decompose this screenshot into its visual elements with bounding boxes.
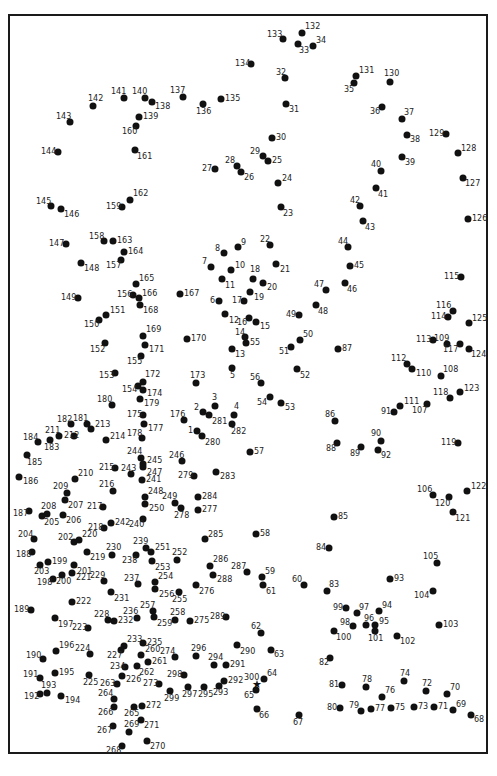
dot-number-label: 202 <box>58 534 73 542</box>
dot-number-label: 178 <box>127 430 142 438</box>
dot-number-label: 196 <box>59 642 74 650</box>
dot-point <box>337 705 344 712</box>
dot-number-label: 160 <box>122 128 137 136</box>
dot-number-label: 198 <box>37 579 52 587</box>
dot-point <box>88 426 95 433</box>
dot-number-label: 115 <box>444 273 459 281</box>
dot-number-label: 76 <box>385 687 395 695</box>
dot-point <box>231 412 238 419</box>
dot-number-label: 144 <box>41 148 56 156</box>
dot-number-label: 195 <box>59 669 74 677</box>
dot-point <box>401 678 408 685</box>
dot-point <box>212 166 219 173</box>
dot-point <box>119 673 126 680</box>
dot-number-label: 26 <box>244 174 254 182</box>
dot-number-label: 204 <box>18 531 33 539</box>
dot-number-label: 225 <box>83 679 98 687</box>
dot-number-label: 279 <box>178 472 193 480</box>
dot-number-label: 246 <box>169 452 184 460</box>
dot-number-label: 229 <box>90 572 105 580</box>
dot-number-label: 203 <box>34 568 49 576</box>
dot-point <box>430 588 437 595</box>
dot-point <box>148 549 155 556</box>
dot-number-label: 245 <box>147 457 162 465</box>
dot-number-label: 291 <box>230 661 245 669</box>
dot-number-label: 242 <box>115 519 130 527</box>
dot-number-label: 231 <box>114 595 129 603</box>
dot-number-label: 21 <box>280 266 290 274</box>
dot-number-label: 274 <box>160 648 175 656</box>
dot-point <box>436 622 443 629</box>
dot-number-label: 249 <box>162 493 177 501</box>
dot-point <box>142 342 149 349</box>
dot-number-label: 294 <box>208 654 223 662</box>
dot-number-label: 293 <box>213 689 228 697</box>
dot-number-label: 286 <box>213 556 228 564</box>
dot-number-label: 210 <box>78 470 93 478</box>
dot-number-label: 284 <box>202 493 217 501</box>
dot-number-label: 31 <box>289 106 299 114</box>
dot-number-label: 223 <box>72 624 87 632</box>
dot-number-label: 85 <box>338 513 348 521</box>
dot-number-label: 261 <box>152 658 167 666</box>
dot-number-label: 18 <box>250 266 260 274</box>
dot-number-label: 19 <box>254 294 264 302</box>
dot-number-label: 211 <box>45 427 60 435</box>
dot-number-label: 91 <box>381 408 391 416</box>
dot-number-label: 179 <box>144 400 159 408</box>
dot-number-label: 51 <box>279 348 289 356</box>
dot-number-label: 168 <box>143 307 158 315</box>
dot-number-label: 154 <box>122 386 137 394</box>
dot-number-label: 106 <box>417 486 432 494</box>
dot-number-label: 280 <box>205 439 220 447</box>
dot-number-label: 143 <box>56 113 71 121</box>
dot-point <box>213 469 220 476</box>
dot-point <box>44 690 51 697</box>
dot-point <box>221 250 228 257</box>
dot-number-label: 27 <box>202 165 212 173</box>
dot-point <box>142 501 149 508</box>
dot-number-label: 29 <box>250 148 260 156</box>
dot-number-label: 28 <box>225 157 235 165</box>
dot-number-label: 142 <box>88 95 103 103</box>
dot-number-label: 88 <box>326 445 336 453</box>
dot-point <box>278 400 285 407</box>
dot-number-label: 13 <box>235 351 245 359</box>
dot-number-label: 136 <box>196 108 211 116</box>
dot-number-label: 39 <box>405 159 415 167</box>
dot-number-label: 237 <box>124 575 139 583</box>
dot-number-label: 296 <box>191 645 206 653</box>
dot-point <box>216 298 223 305</box>
dot-point <box>140 379 147 386</box>
dot-point <box>211 662 218 669</box>
dot-number-label: 5 <box>230 372 235 380</box>
dot-number-label: 125 <box>472 315 487 323</box>
dot-number-label: 177 <box>148 425 163 433</box>
dot-point <box>269 135 276 142</box>
dot-number-label: 139 <box>143 113 158 121</box>
dot-number-label: 41 <box>378 191 388 199</box>
dot-point <box>223 662 230 669</box>
dot-number-label: 272 <box>146 702 161 710</box>
dot-point <box>267 394 274 401</box>
dot-number-label: 212 <box>64 432 79 440</box>
dot-number-label: 205 <box>44 519 59 527</box>
dot-number-label: 16 <box>237 319 247 327</box>
dot-number-label: 67 <box>293 719 303 727</box>
dot-number-label: 74 <box>400 670 410 678</box>
dot-number-label: 105 <box>423 553 438 561</box>
dot-number-label: 24 <box>282 175 292 183</box>
dot-number-label: 89 <box>350 450 360 458</box>
dot-point <box>138 652 145 659</box>
dot-number-label: 108 <box>443 366 458 374</box>
dot-point <box>431 704 438 711</box>
dot-number-label: 54 <box>257 399 267 407</box>
dot-number-label: 103 <box>443 621 458 629</box>
dot-number-label: 236 <box>123 608 138 616</box>
dot-number-label: 227 <box>107 652 122 660</box>
dot-number-label: 123 <box>464 385 479 393</box>
dot-number-label: 120 <box>435 500 450 508</box>
dot-number-label: 288 <box>217 576 232 584</box>
dot-point <box>387 576 394 583</box>
dot-number-label: 37 <box>404 109 414 117</box>
